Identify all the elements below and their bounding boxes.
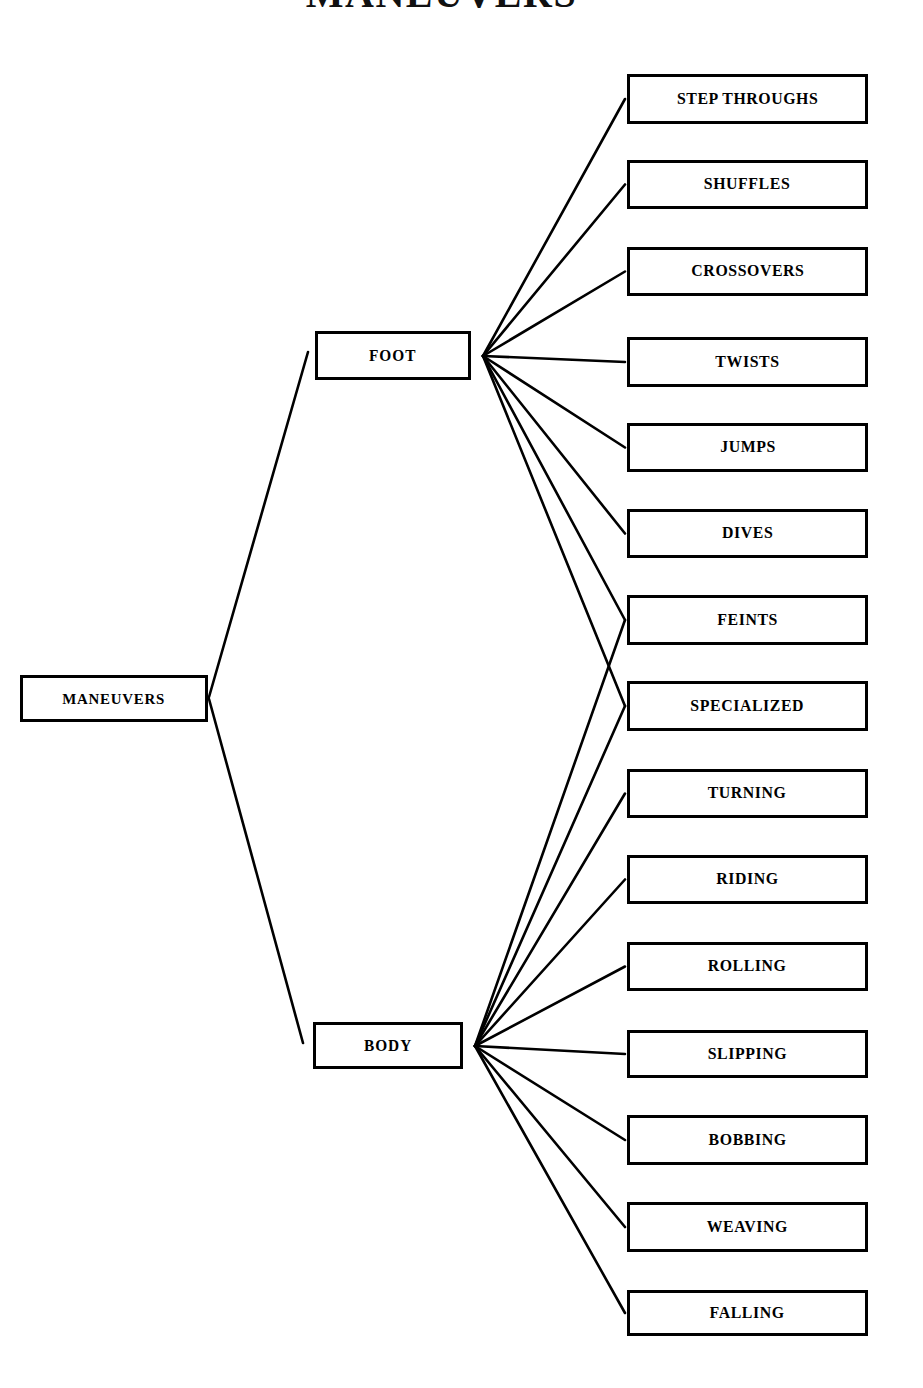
node-label: BODY: [364, 1038, 412, 1054]
node-label: ROLLING: [708, 958, 787, 975]
node-label: FALLING: [710, 1305, 785, 1322]
node-label: RIDING: [716, 871, 778, 888]
node-feints[interactable]: FEINTS: [627, 595, 868, 645]
node-label: STEP THROUGHS: [677, 91, 818, 108]
connector-maneuvers-to-body: [209, 699, 303, 1043]
connector-foot-to-specialized: [483, 356, 625, 706]
node-label: BOBBING: [708, 1132, 786, 1149]
connector-foot-to-step-throughs: [483, 99, 625, 356]
node-weaving[interactable]: WEAVING: [627, 1202, 868, 1252]
node-label: DIVES: [722, 525, 773, 542]
connector-body-to-feints: [475, 620, 625, 1046]
node-dives[interactable]: DIVES: [627, 509, 868, 558]
connector-body-to-slipping: [475, 1046, 625, 1054]
node-falling[interactable]: FALLING: [627, 1290, 868, 1336]
node-label: TURNING: [708, 785, 787, 802]
node-crossovers[interactable]: CROSSOVERS: [627, 247, 868, 296]
node-label: TWISTS: [715, 354, 779, 371]
node-slipping[interactable]: SLIPPING: [627, 1030, 868, 1078]
node-rolling[interactable]: ROLLING: [627, 942, 868, 991]
connector-body-to-specialized: [475, 706, 625, 1046]
connector-body-to-falling: [475, 1046, 625, 1313]
connector-foot-to-crossovers: [483, 272, 625, 357]
node-turning[interactable]: TURNING: [627, 769, 868, 818]
connector-foot-to-shuffles: [483, 185, 625, 357]
connector-body-to-riding: [475, 880, 625, 1047]
connector-foot-to-dives: [483, 356, 625, 534]
connector-foot-to-jumps: [483, 356, 625, 448]
node-label: FEINTS: [717, 612, 778, 629]
node-label: SPECIALIZED: [691, 698, 805, 715]
node-twists[interactable]: TWISTS: [627, 337, 868, 387]
page-title: MANEUVERS: [0, 0, 923, 17]
node-label: JUMPS: [720, 439, 776, 456]
node-riding[interactable]: RIDING: [627, 855, 868, 904]
connector-foot-to-feints: [483, 356, 625, 620]
node-label: MANEUVERS: [63, 691, 166, 707]
connector-body-to-weaving: [475, 1046, 625, 1227]
connector-body-to-rolling: [475, 967, 625, 1047]
node-label: CROSSOVERS: [691, 263, 804, 280]
node-maneuvers[interactable]: MANEUVERS: [20, 675, 208, 722]
node-label: WEAVING: [707, 1219, 788, 1236]
diagram-canvas: MANEUVERS MANEUVERSFOOTBODYSTEP THROUGHS…: [0, 0, 923, 1388]
node-label: FOOT: [369, 348, 416, 364]
connector-body-to-turning: [475, 794, 625, 1047]
node-label: SLIPPING: [708, 1046, 787, 1063]
node-specialized[interactable]: SPECIALIZED: [627, 681, 868, 731]
node-foot[interactable]: FOOT: [315, 331, 471, 380]
node-step-throughs[interactable]: STEP THROUGHS: [627, 74, 868, 124]
connector-foot-to-twists: [483, 356, 625, 362]
node-body[interactable]: BODY: [313, 1022, 463, 1069]
connector-maneuvers-to-foot: [209, 352, 308, 697]
node-jumps[interactable]: JUMPS: [627, 423, 868, 472]
connector-body-to-bobbing: [475, 1046, 625, 1140]
node-label: SHUFFLES: [704, 176, 790, 193]
node-bobbing[interactable]: BOBBING: [627, 1115, 868, 1165]
node-shuffles[interactable]: SHUFFLES: [627, 160, 868, 209]
